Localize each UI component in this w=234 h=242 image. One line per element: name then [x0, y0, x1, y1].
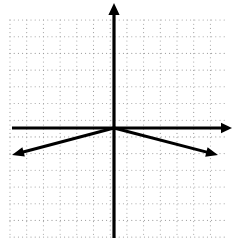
grid-dot [165, 186, 166, 187]
grid-dot [51, 153, 52, 154]
grid-dot [110, 45, 111, 46]
grid-dot [165, 36, 166, 37]
grid-dot [193, 229, 194, 230]
grid-dot [56, 120, 57, 121]
grid-dot [110, 91, 111, 92]
grid-dot [148, 220, 149, 221]
grid-dot [35, 136, 36, 137]
grid-dot [93, 108, 94, 109]
grid-dot [60, 229, 61, 230]
grid-dot [93, 217, 94, 218]
grid-dot [106, 70, 107, 71]
grid-dot [43, 229, 44, 230]
grid-dot [156, 220, 157, 221]
grid-dot [176, 61, 177, 62]
grid-dot [123, 153, 124, 154]
grid-dot [9, 24, 10, 25]
grid-dot [43, 116, 44, 117]
grid-dot [43, 66, 44, 67]
grid-dot [123, 36, 124, 37]
grid-dot [26, 86, 27, 87]
grid-dot [47, 203, 48, 204]
grid-dot [72, 103, 73, 104]
grid-dot [26, 225, 27, 226]
grid-dot [72, 186, 73, 187]
grid-dot [106, 53, 107, 54]
grid-dot [26, 108, 27, 109]
grid-dot [72, 220, 73, 221]
grid-dot [160, 66, 161, 67]
grid-dot [123, 103, 124, 104]
grid-dot [43, 19, 44, 20]
grid-dot [173, 237, 174, 238]
grid-dot [193, 179, 194, 180]
grid-dot [190, 170, 191, 171]
grid-dot [210, 124, 211, 125]
grid-dot [43, 213, 44, 214]
grid-dot [123, 86, 124, 87]
grid-dot [110, 78, 111, 79]
grid-dot [152, 186, 153, 187]
grid-dot [143, 187, 144, 188]
grid-dot [160, 171, 161, 172]
grid-dot [64, 120, 65, 121]
grid-dot [93, 82, 94, 83]
grid-dot [176, 208, 177, 209]
grid-dot [93, 150, 94, 151]
grid-dot [143, 158, 144, 159]
grid-dot [43, 86, 44, 87]
grid-dot [160, 124, 161, 125]
grid-dot [102, 36, 103, 37]
grid-dot [131, 153, 132, 154]
grid-dot [76, 183, 77, 184]
grid-dot [26, 40, 27, 41]
grid-dot [176, 217, 177, 218]
grid-dot [123, 203, 124, 204]
grid-dot [126, 49, 127, 50]
grid-dot [9, 158, 10, 159]
grid-dot [26, 229, 27, 230]
grid-dot [43, 179, 44, 180]
grid-dot [9, 162, 10, 163]
grid-dot [9, 66, 10, 67]
grid-dot [173, 153, 174, 154]
grid-dot [176, 158, 177, 159]
grid-dot [210, 234, 211, 235]
grid-dot [43, 36, 44, 37]
grid-dot [106, 19, 107, 20]
grid-dot [77, 19, 78, 20]
grid-dot [203, 36, 204, 37]
grid-dot [210, 208, 211, 209]
grid-dot [68, 19, 69, 20]
grid-dot [93, 145, 94, 146]
grid-dot [160, 162, 161, 163]
grid-dot [18, 237, 19, 238]
grid-dot [176, 120, 177, 121]
grid-dot [160, 213, 161, 214]
grid-dot [43, 70, 44, 71]
grid-dot [60, 112, 61, 113]
grid-dot [18, 103, 19, 104]
grid-dot [156, 70, 157, 71]
grid-dot [110, 141, 111, 142]
grid-dot [143, 179, 144, 180]
grid-dot [160, 221, 161, 222]
grid-dot [98, 19, 99, 20]
grid-dot [143, 213, 144, 214]
grid-dot [60, 103, 61, 104]
grid-dot [64, 203, 65, 204]
grid-dot [210, 175, 211, 176]
grid-dot [203, 220, 204, 221]
grid-dot [169, 36, 170, 37]
grid-dot [131, 120, 132, 121]
grid-dot [93, 57, 94, 58]
grid-dot [77, 70, 78, 71]
grid-dot [135, 237, 136, 238]
grid-dot [173, 136, 174, 137]
grid-dot [156, 170, 157, 171]
grid-dot [207, 120, 208, 121]
grid-dot [30, 153, 31, 154]
grid-dot [43, 133, 44, 134]
grid-dot [30, 70, 31, 71]
grid-dot [135, 170, 136, 171]
